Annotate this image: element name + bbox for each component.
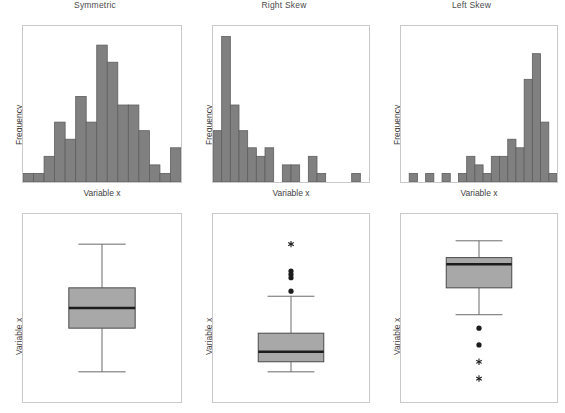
plot-frame-left-skew-boxplot	[400, 213, 558, 403]
histogram-bar	[139, 131, 150, 182]
x-axis-label-left-skew-histogram: Variable x	[400, 188, 558, 198]
histogram-bar	[541, 122, 549, 182]
outlier-star	[288, 241, 294, 247]
panel-title-left-skew: Left Skew	[378, 0, 565, 10]
histogram-bar	[475, 165, 483, 182]
histogram-bar	[483, 173, 491, 182]
histogram-bar	[516, 148, 524, 182]
box-iqr	[258, 333, 324, 362]
x-axis-label-symmetric-histogram: Variable x	[22, 188, 182, 198]
histogram-symmetric	[23, 26, 181, 182]
histogram-bar	[508, 139, 516, 182]
histogram-bar	[500, 156, 508, 182]
histogram-bar	[442, 173, 450, 182]
outlier-dot	[288, 289, 293, 294]
panel-left-skew-histogram: Left Skew Frequency Variable x	[378, 0, 565, 205]
histogram-bar	[76, 96, 87, 182]
histogram-bar	[458, 173, 466, 182]
histogram-bar	[282, 165, 291, 182]
histogram-bar	[23, 173, 34, 182]
outlier-dot	[288, 268, 293, 273]
histogram-bar	[149, 165, 160, 182]
boxplot-right-skew	[213, 214, 369, 402]
plot-frame-right-skew-histogram	[212, 25, 370, 183]
outlier-dot	[476, 342, 481, 347]
outlier-star	[476, 375, 482, 381]
histogram-bar	[107, 62, 118, 182]
histogram-bar	[352, 173, 361, 182]
histogram-bar	[239, 131, 248, 182]
histogram-bar	[426, 173, 434, 182]
histogram-bar	[230, 105, 239, 182]
boxplot-left-skew	[401, 214, 557, 402]
histogram-bar	[248, 148, 257, 182]
histogram-bar	[44, 156, 55, 182]
outlier-star	[476, 359, 482, 365]
plot-frame-right-skew-boxplot	[212, 213, 370, 403]
histogram-bar	[86, 122, 97, 182]
histogram-bar	[160, 173, 171, 182]
histogram-bar	[55, 122, 66, 182]
histogram-bar	[34, 173, 45, 182]
histogram-bar	[65, 139, 76, 182]
histogram-bar	[409, 173, 417, 182]
panel-symmetric-boxplot: Variable x	[0, 205, 190, 413]
histogram-bar	[532, 54, 540, 182]
histogram-bar	[256, 156, 265, 182]
histogram-left-skew	[401, 26, 557, 182]
box-iqr	[446, 258, 512, 288]
panel-symmetric-histogram: Symmetric Frequency Variable x	[0, 0, 190, 205]
histogram-bar	[467, 156, 475, 182]
panel-title-symmetric: Symmetric	[0, 0, 190, 10]
panel-left-skew-boxplot: Variable x	[378, 205, 565, 413]
histogram-bar	[222, 37, 231, 182]
panel-right-skew-boxplot: Variable x	[190, 205, 378, 413]
histogram-right-skew	[213, 26, 369, 182]
panel-right-skew-histogram: Right Skew Frequency Variable x	[190, 0, 378, 205]
histogram-bar	[265, 148, 274, 182]
histogram-bar	[97, 45, 108, 182]
histogram-bar	[128, 105, 139, 182]
histogram-bar	[291, 165, 300, 182]
histogram-bar	[118, 105, 129, 182]
histogram-bar	[524, 79, 532, 182]
outlier-dot	[476, 326, 481, 331]
boxplot-symmetric	[23, 214, 181, 402]
histogram-bar	[213, 131, 222, 182]
histogram-bar	[549, 173, 557, 182]
x-axis-label-right-skew-histogram: Variable x	[212, 188, 370, 198]
histogram-bar	[491, 156, 499, 182]
histogram-bar	[317, 173, 326, 182]
histogram-bar	[308, 156, 317, 182]
statistics-figure: Symmetric Frequency Variable x Right Ske…	[0, 0, 565, 413]
histogram-bar	[170, 148, 181, 182]
panel-title-right-skew: Right Skew	[190, 0, 378, 10]
plot-frame-symmetric-boxplot	[22, 213, 182, 403]
plot-frame-symmetric-histogram	[22, 25, 182, 183]
plot-frame-left-skew-histogram	[400, 25, 558, 183]
